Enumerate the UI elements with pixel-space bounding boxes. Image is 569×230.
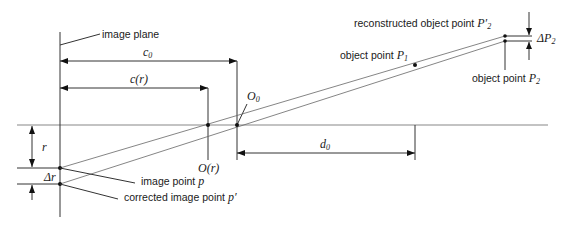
ray-p-to-P2prime — [60, 36, 505, 168]
arrow-up-icon — [29, 185, 35, 193]
object-point-P1 — [413, 63, 417, 67]
arrow-left-icon — [60, 58, 68, 64]
arrow-right-icon — [407, 150, 415, 156]
corrected-image-point-label: corrected image point p′ — [124, 190, 237, 204]
arrow-up-icon — [29, 126, 35, 134]
O0-label: O0 — [247, 89, 260, 104]
arrow-left-icon — [60, 85, 68, 91]
r-label: r — [42, 140, 47, 154]
arrow-right-icon — [229, 58, 237, 64]
arrow-down-icon — [29, 159, 35, 167]
object-point-P2-label: object point P2 — [472, 71, 540, 86]
corrected-image-point-leader — [60, 184, 118, 199]
diagram-canvas: image plane c0 c(r) O(r) O0 d0 r Δr imag… — [0, 0, 569, 230]
delta-P2-label: ΔP2 — [536, 31, 555, 46]
image-plane-label: image plane — [102, 28, 159, 40]
image-point-p-label: image point p — [141, 174, 204, 188]
object-point-P2 — [503, 39, 507, 43]
arrow-up-icon — [526, 42, 532, 49]
reconstructed-object-point-P2prime — [503, 34, 507, 38]
c0-label: c0 — [143, 45, 152, 60]
image-plane-leader — [60, 34, 100, 45]
cr-label: c(r) — [130, 72, 148, 86]
ray-pprime-to-P2 — [60, 41, 505, 184]
arrow-right-icon — [200, 85, 208, 91]
Or-label: O(r) — [198, 161, 219, 175]
d0-label: d0 — [320, 137, 330, 152]
delta-r-label: Δr — [43, 170, 56, 184]
point-Or — [206, 123, 210, 127]
reconstructed-object-point-label: reconstructed object point P′2 — [354, 16, 491, 31]
arrow-down-icon — [526, 28, 532, 35]
arrow-left-icon — [237, 150, 245, 156]
O0-leader — [237, 104, 247, 125]
object-point-P1-label: object point P1 — [340, 48, 408, 63]
point-O0 — [235, 123, 239, 127]
